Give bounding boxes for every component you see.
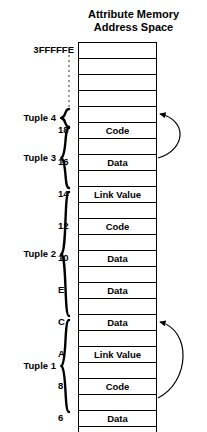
- memory-row: Data: [79, 315, 156, 331]
- link-arrow-tuple3: [158, 114, 180, 158]
- address-continuation-dots: [68, 55, 70, 107]
- memory-row: Link Value: [79, 347, 156, 363]
- memory-row: Code: [79, 379, 156, 395]
- brace-tuple-1: [60, 318, 71, 414]
- memory-row: Link Value: [79, 187, 156, 203]
- memory-map-table: CodeDataLink ValueCodeDataDataDataLink V…: [78, 42, 157, 432]
- memory-row: [79, 91, 156, 107]
- memory-row: [79, 171, 156, 187]
- memory-row: [79, 363, 156, 379]
- title-line-1: Attribute Memory: [60, 8, 207, 21]
- memory-row: [79, 75, 156, 91]
- brace-tuple-4: [60, 108, 71, 128]
- memory-row: [79, 203, 156, 219]
- memory-row: [79, 331, 156, 347]
- memory-row: Data: [79, 283, 156, 299]
- link-arrow-tuple1: [158, 322, 183, 398]
- memory-row: Data: [79, 155, 156, 171]
- memory-cell-label: Link Value: [79, 190, 156, 200]
- address-label: 6: [58, 413, 74, 423]
- title-line-2: Address Space: [60, 21, 207, 34]
- memory-row: [79, 139, 156, 155]
- memory-row: [79, 59, 156, 75]
- attribute-memory-diagram: Attribute Memory Address Space 3FFFFFE C…: [0, 0, 207, 432]
- memory-cell-label: Data: [79, 286, 156, 296]
- tuple-name-4: Tuple 4: [2, 112, 56, 123]
- memory-row: [79, 427, 156, 432]
- tuple-name-2: Tuple 2: [2, 248, 56, 259]
- memory-row: [79, 267, 156, 283]
- memory-row: Data: [79, 251, 156, 267]
- memory-row: Code: [79, 219, 156, 235]
- memory-cell-label: Link Value: [79, 350, 156, 360]
- memory-cell-label: Data: [79, 254, 156, 264]
- memory-row: [79, 299, 156, 315]
- memory-cell-label: Code: [79, 382, 156, 392]
- memory-cell-label: Data: [79, 414, 156, 424]
- diagram-title: Attribute Memory Address Space: [60, 8, 207, 34]
- top-address-label: 3FFFFFE: [18, 45, 74, 55]
- brace-tuple-2: [60, 190, 71, 318]
- memory-cell-label: Data: [79, 318, 156, 328]
- memory-cell-label: Code: [79, 222, 156, 232]
- tuple-name-3: Tuple 3: [2, 152, 56, 163]
- memory-row: Code: [79, 123, 156, 139]
- memory-row: [79, 43, 156, 59]
- memory-row: Data: [79, 411, 156, 427]
- memory-row: [79, 235, 156, 251]
- memory-row: [79, 395, 156, 411]
- memory-cell-label: Code: [79, 126, 156, 136]
- tuple-name-1: Tuple 1: [2, 360, 56, 371]
- memory-cell-label: Data: [79, 158, 156, 168]
- memory-row: [79, 107, 156, 123]
- brace-tuple-3: [60, 126, 71, 190]
